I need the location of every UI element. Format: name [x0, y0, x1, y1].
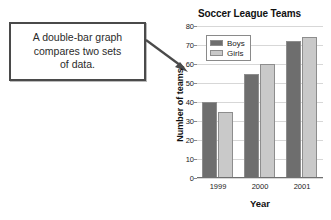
gridline	[197, 178, 323, 179]
legend-label: Boys	[227, 39, 245, 48]
legend-swatch-boys	[210, 40, 223, 46]
y-axis-tick-mark	[194, 26, 197, 27]
y-axis-tick-label: 40	[186, 98, 194, 107]
legend-label: Girls	[227, 49, 243, 58]
bar-boys-1999	[202, 102, 217, 178]
y-axis-tick-label: 60	[186, 60, 194, 69]
y-axis-tick-mark	[194, 159, 197, 160]
bar-girls-2000	[260, 64, 275, 178]
callout-text: A double-bar graph compares two sets of …	[27, 31, 128, 73]
y-axis-tick-mark	[194, 83, 197, 84]
bar-boys-2000	[244, 74, 259, 179]
y-axis-tick-label: 20	[186, 136, 194, 145]
x-axis-tick-label: 1999	[201, 182, 235, 191]
y-axis-tick-label: 50	[186, 79, 194, 88]
y-axis-tick-label: 70	[186, 41, 194, 50]
bar-group: 2001	[286, 26, 318, 178]
x-axis-tick-label: 2000	[243, 182, 277, 191]
y-axis-tick-mark	[194, 45, 197, 46]
bar-boys-2001	[286, 41, 301, 178]
callout-box: A double-bar graph compares two sets of …	[9, 22, 146, 81]
y-axis-title: Number of teams	[175, 57, 185, 153]
y-axis-tick-label: 10	[186, 155, 194, 164]
bar-girls-1999	[218, 112, 233, 179]
legend-item-boys: Boys	[210, 38, 245, 48]
x-axis-baseline	[197, 177, 323, 178]
y-axis-tick-mark	[194, 178, 197, 179]
legend-swatch-girls	[210, 50, 223, 56]
x-axis-title: Year	[197, 198, 323, 209]
x-axis-tick-label: 2001	[285, 182, 319, 191]
legend-item-girls: Girls	[210, 48, 245, 58]
y-axis-tick-mark	[194, 64, 197, 65]
y-axis-tick-label: 80	[186, 22, 194, 31]
y-axis-tick-mark	[194, 121, 197, 122]
y-axis-tick-mark	[194, 140, 197, 141]
y-axis-tick-label: 30	[186, 117, 194, 126]
bar-girls-2001	[302, 37, 317, 178]
chart-title: Soccer League Teams	[168, 8, 331, 19]
chart-legend: BoysGirls	[206, 35, 251, 61]
bar-chart: Soccer League Teams Number of teams 0102…	[168, 4, 331, 218]
y-axis-tick-mark	[194, 102, 197, 103]
